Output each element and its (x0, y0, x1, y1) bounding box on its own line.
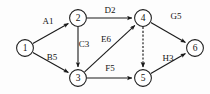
node-label-1: 1 (23, 43, 28, 53)
edge-label-C: C3 (79, 39, 90, 49)
edge-label-B: B5 (47, 52, 58, 62)
network-diagram-svg: A1B5D2C3E6F5G5H3 123456 (0, 0, 210, 94)
edge-1-to-2 (33, 23, 69, 43)
node-6[interactable]: 6 (187, 40, 204, 57)
node-label-3: 3 (76, 73, 81, 83)
node-4[interactable]: 4 (135, 10, 152, 27)
edge-labels-layer: A1B5D2C3E6F5G5H3 (43, 5, 182, 73)
edge-label-F: F5 (105, 63, 115, 73)
edge-label-A: A1 (43, 16, 54, 26)
node-label-2: 2 (76, 13, 81, 23)
node-3[interactable]: 3 (70, 70, 87, 87)
node-label-5: 5 (141, 73, 146, 83)
edge-4-to-6 (151, 23, 186, 43)
node-label-4: 4 (141, 13, 146, 23)
edge-label-E: E6 (101, 34, 111, 44)
edge-label-G: G5 (171, 11, 182, 21)
edge-label-H: H3 (163, 53, 174, 63)
node-5[interactable]: 5 (135, 70, 152, 87)
edge-label-D: D2 (105, 5, 116, 15)
node-2[interactable]: 2 (70, 10, 87, 27)
node-label-6: 6 (193, 43, 198, 53)
node-1[interactable]: 1 (17, 40, 34, 57)
diagram-canvas: A1B5D2C3E6F5G5H3 123456 (0, 0, 210, 94)
